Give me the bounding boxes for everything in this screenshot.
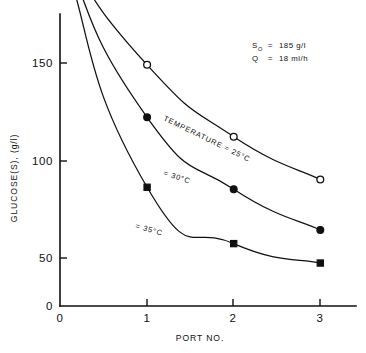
y-tick-label-50: 50	[39, 252, 53, 264]
annotation-s0-symbol: S	[252, 41, 258, 50]
marker-35c-port1	[144, 184, 150, 190]
marker-30c-port1	[144, 114, 151, 121]
annotation-q-value: 18 ml/h	[279, 54, 308, 63]
marker-25c-port2	[230, 133, 237, 140]
annotation-q-symbol: Q	[252, 54, 259, 63]
x-tick-label-3: 3	[317, 312, 324, 324]
y-axis-title: GLUCOSE(S), (g/l)	[9, 134, 19, 222]
y-tick-label-100: 100	[32, 155, 53, 167]
curve-label-35c: = 35°C	[134, 221, 163, 237]
glucose-port-line-chart: 150 100 50 0 0 1 2 3 PORT NO. GLUCOSE(S)…	[0, 0, 366, 353]
annotation-s0-value: 185 g/l	[279, 41, 306, 50]
marker-25c-port1	[144, 61, 151, 68]
marker-35c-port2	[231, 241, 237, 247]
markers-25c	[57, 0, 323, 183]
y-tick-label-0: 0	[46, 300, 53, 312]
markers-35c	[144, 184, 323, 266]
marker-25c-port3	[317, 176, 324, 183]
y-tick-marks	[60, 63, 67, 258]
x-tick-marks	[147, 299, 320, 306]
line-series-25c	[61, 0, 321, 179]
x-axis-title: PORT NO.	[176, 333, 224, 343]
curve-label-30c: = 30°C	[162, 168, 191, 185]
annotation-q-equals: =	[268, 54, 273, 63]
curve-label-25c: TEMPERATURE = 25°C	[162, 114, 252, 164]
axes-group	[60, 14, 356, 306]
marker-30c-port2	[230, 186, 237, 193]
x-tick-label-2: 2	[230, 312, 237, 324]
x-tick-label-0: 0	[57, 312, 64, 324]
marker-35c-port3	[317, 260, 323, 266]
y-tick-label-150: 150	[32, 57, 53, 69]
line-series-30c	[61, 0, 321, 230]
chart-figure: 150 100 50 0 0 1 2 3 PORT NO. GLUCOSE(S)…	[0, 0, 366, 353]
annotation-s0-subscript: O	[258, 46, 263, 52]
parameter-annotation-block: S O = 185 g/l Q = 18 ml/h	[252, 41, 308, 63]
annotation-s0-equals: =	[268, 41, 273, 50]
marker-30c-port3	[317, 227, 324, 234]
x-tick-label-1: 1	[144, 312, 151, 324]
